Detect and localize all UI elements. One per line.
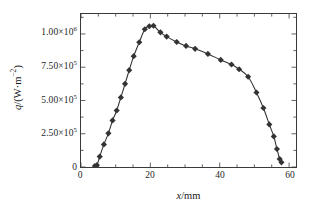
x-axis-unit: /mm xyxy=(181,190,200,201)
data-point-marker xyxy=(192,46,198,52)
y-axis-title: q/(W·m−2) xyxy=(12,38,23,138)
data-point-marker xyxy=(253,89,259,95)
data-point-marker xyxy=(118,94,124,100)
y-tick-label: 5.00×105 xyxy=(41,95,77,105)
data-point-marker xyxy=(105,130,111,136)
y-tick-exponent: 5 xyxy=(73,126,77,133)
plot-svg xyxy=(81,14,296,167)
data-point-marker xyxy=(136,39,142,45)
y-tick-label: 7.50×105 xyxy=(41,61,77,71)
data-point-marker xyxy=(131,53,137,59)
data-point-marker xyxy=(228,61,234,67)
y-axis-unit-exponent: −2 xyxy=(9,69,18,77)
y-tick-exponent: 5 xyxy=(73,92,77,99)
data-point-marker xyxy=(114,107,120,113)
y-tick-exponent: 5 xyxy=(73,59,77,66)
y-tick-label: 1.00×106 xyxy=(41,27,77,37)
x-tick-label: 60 xyxy=(285,170,295,180)
data-point-marker xyxy=(164,34,170,40)
data-point-marker xyxy=(183,43,189,49)
y-axis-tick-labels: 1.00×106 7.50×105 5.00×105 2.50×105 0 xyxy=(14,0,77,222)
data-point-marker xyxy=(101,141,107,147)
x-tick-label: 0 xyxy=(78,170,83,180)
data-point-marker xyxy=(205,51,211,57)
y-tick-label: 2.50×105 xyxy=(41,128,77,138)
y-axis-variable: q xyxy=(12,105,23,110)
data-point-marker xyxy=(274,146,280,152)
x-axis-title: x/mm xyxy=(80,190,297,201)
data-point-marker xyxy=(218,57,224,63)
axis-ticks xyxy=(81,14,296,167)
y-axis-unit: /(W·m−2) xyxy=(12,65,23,105)
data-point-marker xyxy=(260,105,266,111)
x-axis-tick-labels: 0 20 40 60 xyxy=(0,170,313,184)
x-tick-label: 40 xyxy=(215,170,225,180)
y-tick-exponent: 6 xyxy=(73,25,77,32)
data-series-markers xyxy=(92,23,285,167)
data-point-marker xyxy=(97,154,103,160)
data-point-marker xyxy=(174,39,180,45)
data-point-marker xyxy=(126,67,132,73)
figure-container: 1.00×106 7.50×105 5.00×105 2.50×105 0 0 … xyxy=(0,0,313,222)
data-point-marker xyxy=(109,117,115,123)
plot-area xyxy=(80,13,297,168)
x-tick-label: 20 xyxy=(145,170,155,180)
data-point-marker xyxy=(122,81,128,87)
data-point-marker xyxy=(271,133,277,139)
data-point-marker xyxy=(266,121,272,127)
